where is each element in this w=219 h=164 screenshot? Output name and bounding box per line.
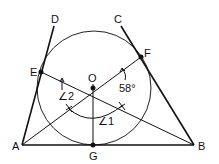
label-angle1: ∠1 (98, 115, 114, 127)
point-E (39, 70, 44, 75)
label-E: E (30, 66, 37, 78)
label-C: C (114, 13, 122, 25)
tick-mark (119, 102, 125, 110)
label-58deg: 58° (119, 82, 136, 94)
label-G: G (89, 150, 98, 162)
label-A: A (12, 140, 20, 152)
line-AD (22, 26, 54, 145)
point-F (139, 55, 144, 60)
point-O (91, 86, 96, 91)
label-D: D (51, 13, 59, 25)
point-G (91, 143, 96, 148)
label-B: B (198, 140, 205, 152)
geometry-diagram: A B C D E F G O ∠2 ∠1 58° (0, 0, 219, 164)
label-F: F (144, 47, 151, 59)
label-O: O (88, 72, 97, 84)
label-angle2: ∠2 (58, 90, 74, 102)
